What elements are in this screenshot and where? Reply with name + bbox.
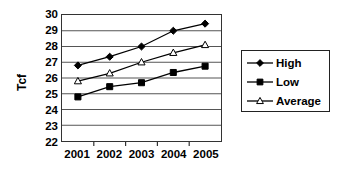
- y-axis-tick-labels: 222324252627282930: [33, 8, 58, 148]
- y-axis-title: Tcf: [14, 62, 30, 102]
- legend-label: Average: [274, 94, 321, 108]
- square-marker-icon: [246, 75, 274, 89]
- y-tick-label: 22: [33, 136, 58, 148]
- legend-item-high[interactable]: High: [246, 54, 302, 72]
- data-point: [202, 41, 209, 47]
- data-point: [170, 69, 176, 75]
- legend-item-low[interactable]: Low: [246, 73, 299, 91]
- x-axis-tick-labels: 20012002200320042005: [61, 147, 222, 165]
- y-tick-label: 27: [33, 56, 58, 68]
- triangle-marker-icon: [246, 94, 274, 108]
- x-tick-label: 2005: [186, 147, 226, 161]
- y-tick-label: 30: [33, 8, 58, 20]
- y-tick-label: 26: [33, 72, 58, 84]
- diamond-marker-icon: [246, 56, 274, 70]
- y-tick-label: 25: [33, 88, 58, 100]
- data-point: [106, 53, 113, 60]
- y-tick-label: 24: [33, 104, 58, 116]
- data-point: [138, 80, 144, 86]
- data-point: [74, 62, 81, 69]
- y-tick-label: 23: [33, 120, 58, 132]
- plot-area: [61, 14, 222, 142]
- legend-item-average[interactable]: Average: [246, 92, 321, 110]
- chart-legend: HighLowAverage: [241, 50, 330, 112]
- data-series-layer: [62, 15, 221, 141]
- y-tick-label: 29: [33, 24, 58, 36]
- data-point: [75, 94, 81, 100]
- legend-label: Low: [274, 75, 299, 89]
- data-point: [202, 20, 209, 27]
- data-point: [107, 84, 113, 90]
- data-point: [170, 27, 177, 34]
- legend-label: High: [274, 56, 302, 70]
- line-chart: Tcf 222324252627282930 20012002200320042…: [0, 0, 341, 184]
- y-tick-label: 28: [33, 40, 58, 52]
- series-low: [75, 63, 208, 100]
- data-point: [138, 43, 145, 50]
- data-point: [202, 63, 208, 69]
